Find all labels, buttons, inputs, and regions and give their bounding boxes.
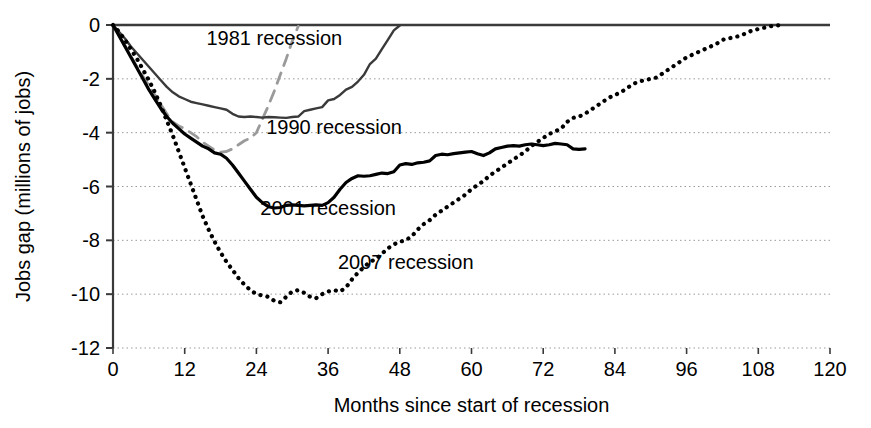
- y-tick-label: -4: [82, 122, 100, 144]
- x-axis-title: Months since start of recession: [334, 394, 610, 416]
- y-axis-title: Jobs gap (millions of jobs): [12, 71, 34, 302]
- y-tick-label: -6: [82, 176, 100, 198]
- x-tick-label: 72: [532, 358, 554, 380]
- x-axis-tick-labels: 01224364860728496108120: [107, 358, 846, 380]
- x-tick-label: 12: [174, 358, 196, 380]
- x-tick-label: 84: [604, 358, 626, 380]
- x-tick-label: 108: [742, 358, 775, 380]
- x-tick-label: 120: [813, 358, 846, 380]
- x-tick-label: 24: [245, 358, 267, 380]
- axes: [113, 25, 830, 348]
- series-label-2007-recession: 2007 recession: [338, 251, 474, 273]
- x-tick-label: 96: [675, 358, 697, 380]
- series-label-1981-recession: 1981 recession: [206, 27, 342, 49]
- x-tick-label: 48: [389, 358, 411, 380]
- y-tick-label: -12: [71, 337, 100, 359]
- y-tick-label: -2: [82, 68, 100, 90]
- series-label-1990-recession: 1990 recession: [266, 116, 402, 138]
- chart-figure: 0-2-4-6-8-10-12 01224364860728496108120 …: [0, 0, 871, 428]
- gridlines: [113, 79, 830, 348]
- y-axis-tick-labels: 0-2-4-6-8-10-12: [71, 14, 100, 359]
- y-tick-label: 0: [89, 14, 100, 36]
- y-tick-label: -8: [82, 229, 100, 251]
- x-tick-label: 36: [317, 358, 339, 380]
- y-tick-label: -10: [71, 283, 100, 305]
- jobs-gap-line-chart: 0-2-4-6-8-10-12 01224364860728496108120 …: [0, 0, 871, 428]
- series-label-2001-recession: 2001 recession: [260, 197, 396, 219]
- x-tick-label: 0: [107, 358, 118, 380]
- series-annotations: 1981 recession1990 recession2001 recessi…: [206, 27, 473, 272]
- x-tick-label: 60: [460, 358, 482, 380]
- x-axis-ticks: [113, 348, 830, 354]
